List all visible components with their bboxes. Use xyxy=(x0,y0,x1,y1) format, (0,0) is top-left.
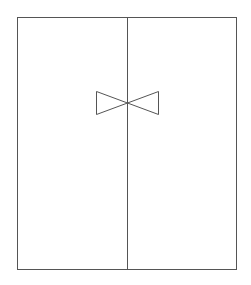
bowtie-left-triangle xyxy=(97,92,128,115)
diagram-canvas xyxy=(0,0,251,285)
bowtie-right-triangle xyxy=(128,92,159,115)
